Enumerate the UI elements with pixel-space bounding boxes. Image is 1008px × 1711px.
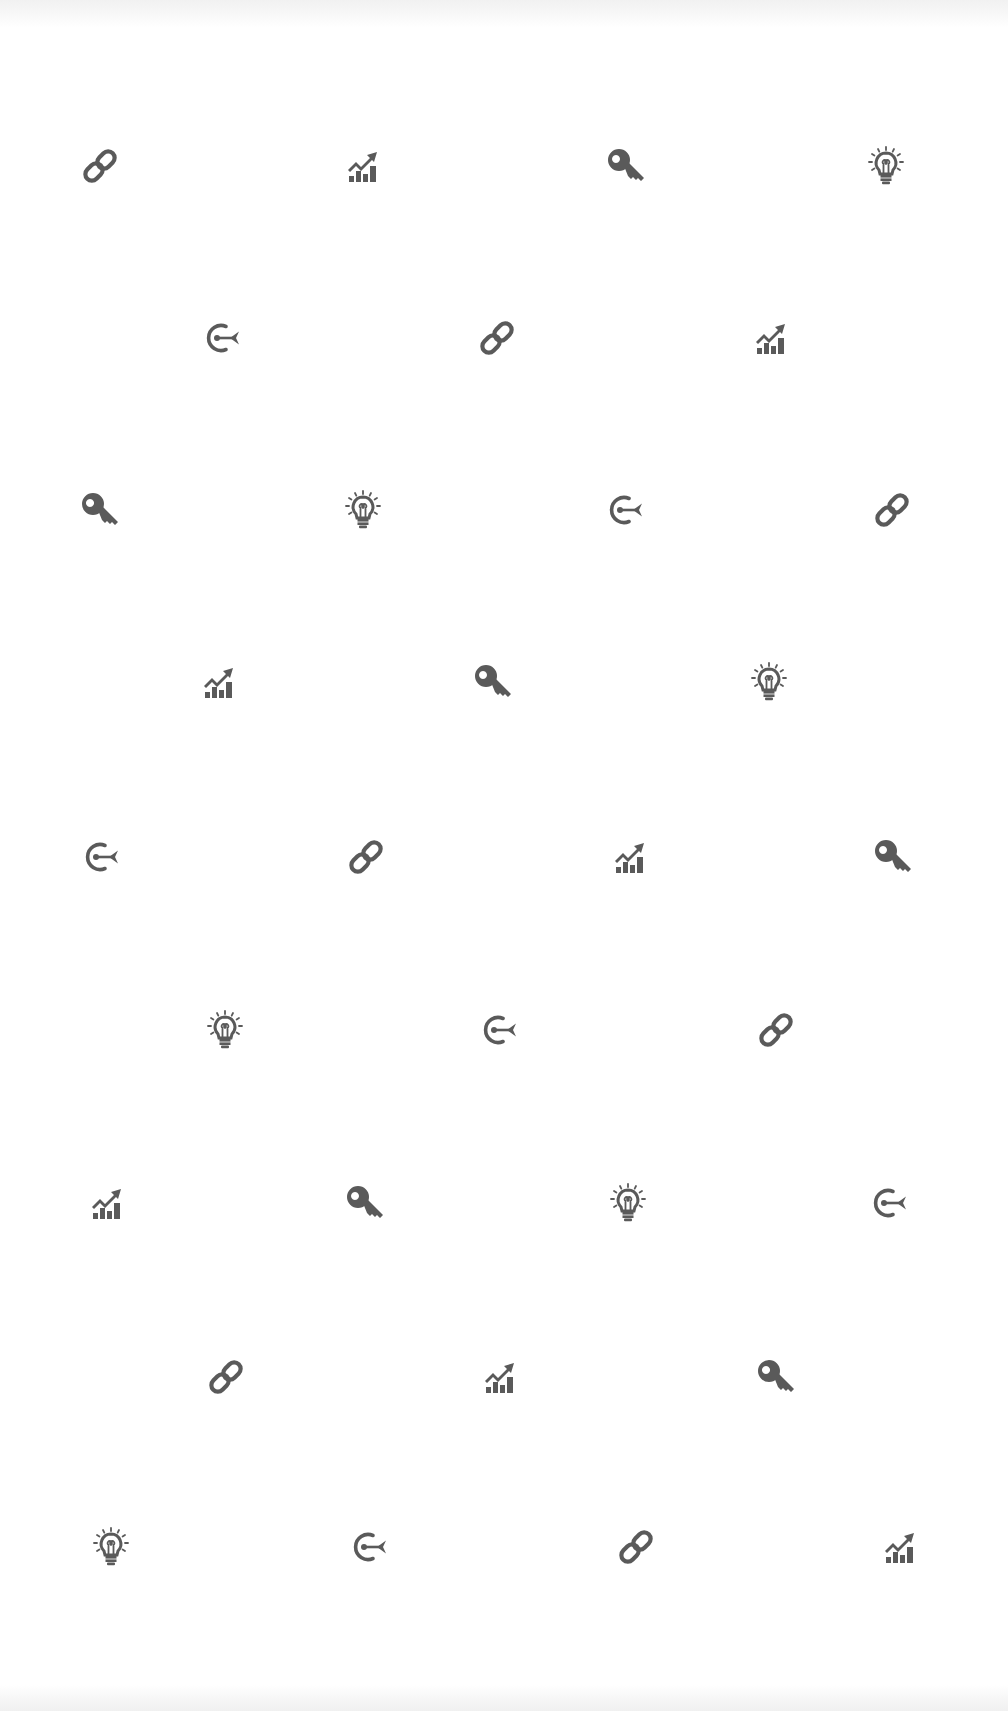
chart-icon [749,316,793,360]
chart-icon [878,1525,922,1569]
bulb-icon [747,660,791,704]
chart-icon [197,660,241,704]
bulb-icon [89,1525,133,1569]
target-icon [348,1525,392,1569]
key-icon [343,1181,387,1225]
key-icon [78,488,122,532]
chart-icon [478,1355,522,1399]
link-icon [204,1355,248,1399]
target-icon [604,488,648,532]
key-icon [604,144,648,188]
chart-icon [85,1181,129,1225]
link-icon [754,1008,798,1052]
key-icon [754,1355,798,1399]
chart-icon [608,835,652,879]
link-icon [78,144,122,188]
link-icon [475,316,519,360]
target-icon [478,1008,522,1052]
icon-pattern [0,0,1008,1711]
bulb-icon [606,1181,650,1225]
target-icon [868,1181,912,1225]
link-icon [614,1525,658,1569]
bulb-icon [203,1008,247,1052]
link-icon [344,835,388,879]
key-icon [471,660,515,704]
bulb-icon [341,488,385,532]
key-icon [871,835,915,879]
target-icon [201,316,245,360]
chart-icon [341,144,385,188]
link-icon [870,488,914,532]
bulb-icon [864,144,908,188]
target-icon [80,835,124,879]
